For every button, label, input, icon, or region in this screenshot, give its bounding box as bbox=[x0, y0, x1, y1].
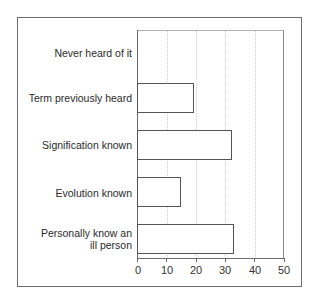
bar-3 bbox=[137, 177, 181, 207]
category-label-signification: Signification known bbox=[2, 139, 132, 151]
x-tick-mark bbox=[225, 258, 226, 262]
category-label-line1: Personally know an bbox=[2, 227, 132, 239]
category-label-evolution: Evolution known bbox=[2, 187, 132, 199]
category-label-term-heard: Term previously heard bbox=[2, 92, 132, 104]
bar-1 bbox=[137, 83, 194, 113]
x-tick-mark bbox=[284, 258, 285, 262]
x-tick-mark bbox=[254, 258, 255, 262]
x-tick-label: 20 bbox=[186, 264, 206, 276]
x-tick-mark bbox=[196, 258, 197, 262]
bar-2 bbox=[137, 130, 232, 160]
x-tick-label: 10 bbox=[157, 264, 177, 276]
category-label-line2: ill person bbox=[2, 239, 132, 251]
x-tick-label: 40 bbox=[245, 264, 265, 276]
x-tick-mark bbox=[166, 258, 167, 262]
category-label-personally-know: Personally know an ill person bbox=[2, 227, 132, 251]
x-tick-label: 0 bbox=[128, 264, 148, 276]
x-tick-label: 30 bbox=[215, 264, 235, 276]
x-tick-label: 50 bbox=[274, 264, 294, 276]
category-label-never-heard: Never heard of it bbox=[2, 47, 132, 59]
x-axis bbox=[137, 258, 285, 259]
bar-4 bbox=[137, 224, 234, 254]
x-tick-mark bbox=[137, 258, 138, 262]
gridline-40 bbox=[255, 31, 256, 258]
